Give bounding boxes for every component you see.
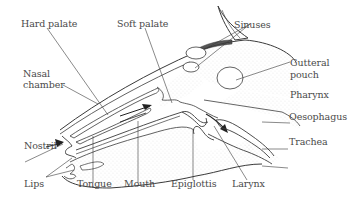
- label-trachea: Trachea: [289, 136, 328, 147]
- label-sinuses: Sinuses: [234, 19, 270, 30]
- label-hard-palate: Hard palate: [21, 18, 77, 29]
- sinus-1: [186, 47, 206, 59]
- label-nasal-chamber-line2: chamber: [23, 79, 65, 90]
- epiglottis-outline: [193, 126, 214, 140]
- gutteral-pouch: [217, 67, 243, 89]
- label-gutteral-pouch-line1: Gutteral: [290, 57, 329, 68]
- label-tongue: Tongue: [77, 178, 112, 189]
- label-nostril: Nostril: [24, 140, 57, 151]
- label-mouth: Mouth: [124, 178, 155, 189]
- label-oesophagus: Oesophagus: [289, 111, 347, 122]
- label-lips: Lips: [24, 178, 44, 189]
- label-gutteral-pouch-line2: pouch: [290, 69, 319, 80]
- soft-palate: [182, 112, 207, 127]
- muzzle-outline: [62, 136, 76, 158]
- label-larynx: Larynx: [232, 178, 265, 189]
- label-epiglottis: Epiglottis: [171, 178, 216, 189]
- horse-head-diagram: Hard palate Soft palate Sinuses Gutteral…: [0, 0, 364, 198]
- label-nasal-chamber-line1: Nasal: [23, 68, 50, 79]
- label-pharynx: Pharynx: [290, 89, 329, 100]
- label-soft-palate: Soft palate: [117, 18, 168, 29]
